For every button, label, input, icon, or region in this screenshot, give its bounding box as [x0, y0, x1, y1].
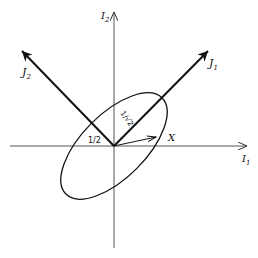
inv-sqrt2-label: 1/√2 — [118, 109, 135, 128]
j1-axis — [114, 51, 208, 146]
j2-axis — [22, 51, 114, 146]
diagram-canvas: I2 I1 J1 J2 X 1/2 1/√2 — [0, 0, 258, 258]
x-label: X — [167, 132, 176, 143]
j1-label: J1 — [207, 57, 218, 72]
ellipse-principal-axes-diagram: I2 I1 J1 J2 X 1/2 1/√2 — [0, 0, 258, 258]
i1-label: I1 — [241, 153, 250, 167]
i2-label: I2 — [100, 10, 110, 24]
j2-label: J2 — [20, 66, 31, 81]
half-label: 1/2 — [88, 136, 101, 145]
